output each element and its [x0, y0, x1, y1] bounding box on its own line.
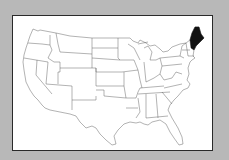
- us-map: [0, 0, 229, 160]
- state-maine[interactable]: [190, 27, 204, 50]
